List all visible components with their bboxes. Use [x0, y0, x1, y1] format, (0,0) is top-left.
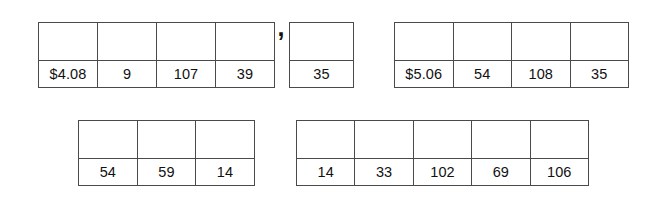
value-cell[interactable]: 14 — [196, 159, 255, 186]
empty-cell[interactable] — [297, 121, 355, 159]
empty-cell[interactable] — [512, 23, 571, 61]
number-table-4: 54 59 14 — [78, 120, 255, 186]
table-row — [395, 23, 629, 61]
worksheet-canvas: $4.08 9 107 39 , 35 $5.06 54 108 35 — [0, 0, 654, 206]
value-cell[interactable]: 54 — [79, 159, 138, 186]
table-row: $4.08 9 107 39 — [39, 61, 275, 88]
empty-cell[interactable] — [413, 121, 471, 159]
empty-cell[interactable] — [79, 121, 138, 159]
table-row: 54 59 14 — [79, 159, 255, 186]
value-cell[interactable]: 39 — [216, 61, 275, 88]
value-cell[interactable]: 59 — [137, 159, 196, 186]
table-row — [39, 23, 275, 61]
value-cell[interactable]: $4.08 — [39, 61, 98, 88]
value-cell[interactable]: 107 — [157, 61, 216, 88]
value-cell[interactable]: 9 — [98, 61, 157, 88]
table-row: 35 — [290, 61, 354, 88]
empty-cell[interactable] — [395, 23, 454, 61]
table-row — [79, 121, 255, 159]
empty-cell[interactable] — [98, 23, 157, 61]
comma-separator: , — [274, 14, 288, 40]
value-cell[interactable]: 54 — [453, 61, 512, 88]
number-table-1: $4.08 9 107 39 — [38, 22, 275, 88]
empty-cell[interactable] — [137, 121, 196, 159]
table-row — [290, 23, 354, 61]
number-table-3: $5.06 54 108 35 — [394, 22, 629, 88]
empty-cell[interactable] — [570, 23, 629, 61]
table-row: $5.06 54 108 35 — [395, 61, 629, 88]
empty-cell[interactable] — [196, 121, 255, 159]
value-cell[interactable]: $5.06 — [395, 61, 454, 88]
value-cell[interactable]: 102 — [413, 159, 471, 186]
empty-cell[interactable] — [216, 23, 275, 61]
empty-cell[interactable] — [157, 23, 216, 61]
value-cell[interactable]: 35 — [290, 61, 354, 88]
number-table-2: 35 — [289, 22, 354, 88]
empty-cell[interactable] — [530, 121, 588, 159]
empty-cell[interactable] — [472, 121, 530, 159]
value-cell[interactable]: 69 — [472, 159, 530, 186]
empty-cell[interactable] — [39, 23, 98, 61]
value-cell[interactable]: 33 — [355, 159, 413, 186]
empty-cell[interactable] — [290, 23, 354, 61]
table-row — [297, 121, 589, 159]
empty-cell[interactable] — [355, 121, 413, 159]
table-row: 14 33 102 69 106 — [297, 159, 589, 186]
empty-cell[interactable] — [453, 23, 512, 61]
number-table-5: 14 33 102 69 106 — [296, 120, 589, 186]
value-cell[interactable]: 14 — [297, 159, 355, 186]
value-cell[interactable]: 35 — [570, 61, 629, 88]
value-cell[interactable]: 106 — [530, 159, 588, 186]
value-cell[interactable]: 108 — [512, 61, 571, 88]
